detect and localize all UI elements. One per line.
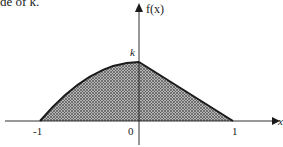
- x-tick-minus-one: -1: [33, 125, 42, 137]
- x-axis-label: x: [278, 115, 283, 127]
- peak-label: k: [130, 46, 135, 58]
- y-axis-arrow-icon: [135, 3, 143, 12]
- function-graph: [0, 0, 283, 147]
- x-tick-one: 1: [232, 125, 238, 137]
- y-axis-label: f(x): [146, 2, 164, 17]
- x-tick-zero: 0: [128, 125, 134, 137]
